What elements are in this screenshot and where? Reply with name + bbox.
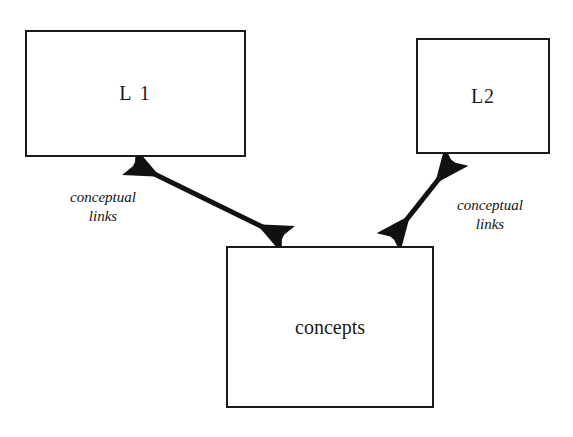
edge-label-l1-concepts: conceptual links [47, 188, 159, 226]
edge-label-line-1: conceptual [434, 196, 546, 215]
node-label-l2: L2 [471, 85, 495, 108]
edge-label-concepts-l2: conceptual links [434, 196, 546, 234]
edge-label-line-1: conceptual [47, 188, 159, 207]
node-label-l1: L 1 [119, 82, 151, 105]
node-label-concepts: concepts [295, 316, 365, 339]
diagram-canvas: L 1 L2 concepts conceptual links concept… [0, 0, 573, 437]
edge-label-line-2: links [47, 207, 159, 226]
edge-label-line-2: links [434, 215, 546, 234]
node-box-l2[interactable]: L2 [416, 38, 550, 154]
node-box-l1[interactable]: L 1 [25, 30, 246, 157]
node-box-concepts[interactable]: concepts [226, 246, 434, 408]
